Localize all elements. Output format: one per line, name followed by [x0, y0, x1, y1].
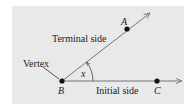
point-a-label: A [120, 16, 128, 27]
point-b [59, 78, 64, 83]
angle-label: x [80, 68, 86, 79]
vertex-label: Vertex [23, 58, 49, 69]
point-c-label: C [154, 85, 161, 96]
point-a [124, 26, 129, 31]
initial-side-label: Initial side [96, 85, 139, 96]
point-b-label: B [58, 85, 64, 96]
point-c [154, 78, 159, 83]
terminal-side-label: Terminal side [52, 33, 107, 44]
angle-diagram: Terminal side Initial side Vertex A B C … [0, 0, 191, 111]
